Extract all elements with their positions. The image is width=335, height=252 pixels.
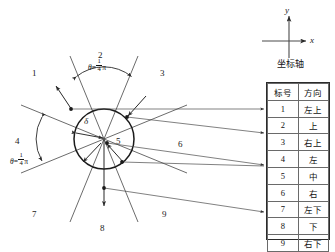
pi-symbol-left: π <box>24 157 28 166</box>
region-label-8: 8 <box>100 224 105 233</box>
table-header-index: 标号 <box>268 84 299 101</box>
table-cell-direction: 右下 <box>298 235 329 252</box>
fraction-left: 14 <box>18 152 23 166</box>
table-row: 5中 <box>268 167 329 184</box>
table-cell-direction: 右 <box>298 184 329 201</box>
region-label-3: 3 <box>160 69 165 78</box>
equals-left: = <box>14 157 18 166</box>
table-cell-direction: 左 <box>298 151 329 168</box>
table-cell-direction: 中 <box>298 167 329 184</box>
table-cell-direction: 左下 <box>298 201 329 218</box>
table-row: 7左下 <box>268 201 329 218</box>
table-row: 4左 <box>268 151 329 168</box>
table-cell-index: 9 <box>268 235 299 252</box>
delta-radius-arrow <box>76 133 103 138</box>
table-cell-index: 3 <box>268 134 299 151</box>
table-cell-index: 5 <box>268 167 299 184</box>
angle-annotation-top: θ=14π <box>88 58 106 72</box>
region-label-1: 1 <box>32 69 37 78</box>
table-cell-direction: 上 <box>298 117 329 134</box>
axis-legend-caption: 坐标轴 <box>248 57 332 70</box>
x-axis-label: x <box>310 36 314 45</box>
table-row: 8下 <box>268 218 329 235</box>
region-label-4: 4 <box>15 137 20 146</box>
table-cell-index: 4 <box>268 151 299 168</box>
equals-top: = <box>92 63 96 72</box>
region-label-7: 7 <box>32 210 37 219</box>
fraction-denominator-left: 4 <box>18 160 23 167</box>
table-cell-index: 2 <box>268 117 299 134</box>
table-header-direction: 方向 <box>298 84 329 101</box>
delta-label: δ <box>84 117 88 126</box>
region-label-5: 5 <box>116 137 121 146</box>
table-cell-index: 7 <box>268 201 299 218</box>
leader-lines <box>71 109 264 212</box>
table-cell-index: 6 <box>268 184 299 201</box>
table-row: 2上 <box>268 117 329 134</box>
region-label-6: 6 <box>178 140 183 149</box>
coordinate-axis-cross <box>262 16 306 58</box>
pi-symbol-top: π <box>102 63 106 72</box>
table-header-row: 标号 方向 <box>268 84 329 101</box>
table-row: 9右下 <box>268 235 329 252</box>
region-label-9: 9 <box>162 210 167 219</box>
table-row: 1左上 <box>268 100 329 117</box>
angle-annotation-left: θ=14π <box>10 152 28 166</box>
table-row: 6右 <box>268 184 329 201</box>
table-cell-index: 1 <box>268 100 299 117</box>
fraction-top: 14 <box>96 58 101 72</box>
table-row: 3右上 <box>268 134 329 151</box>
table-cell-index: 8 <box>268 218 299 235</box>
table-cell-direction: 左上 <box>298 100 329 117</box>
table-cell-direction: 下 <box>298 218 329 235</box>
table-cell-direction: 右上 <box>298 134 329 151</box>
y-axis-label: y <box>285 6 289 15</box>
fraction-denominator-top: 4 <box>96 66 101 73</box>
direction-lookup-table: 标号 方向 1左上2上3右上4左5中6右7左下8下9右下 <box>266 82 330 240</box>
